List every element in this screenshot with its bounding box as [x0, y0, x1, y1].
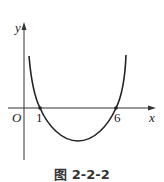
tick-label-6: 6: [114, 110, 121, 125]
origin-label: O: [12, 110, 22, 125]
function-graph: y x O 1 6: [0, 0, 164, 182]
y-axis-arrow-icon: [22, 22, 27, 30]
x-axis-label: x: [148, 110, 155, 125]
y-axis-label: y: [13, 20, 21, 35]
figure-caption: 图 2-2-2: [0, 164, 164, 182]
function-curve: [29, 55, 126, 141]
tick-label-1: 1: [36, 110, 43, 125]
